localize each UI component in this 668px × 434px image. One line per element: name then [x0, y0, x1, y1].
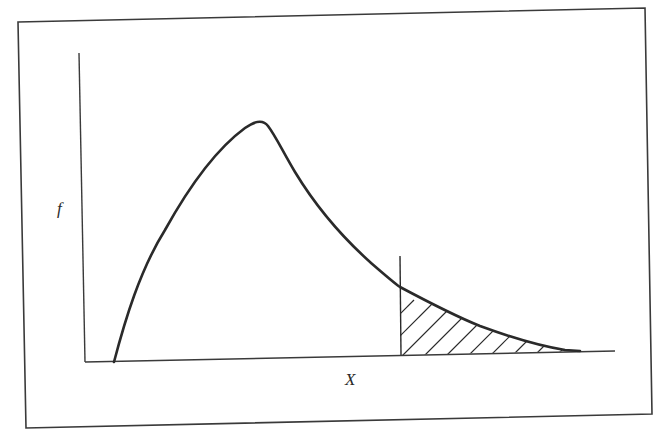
shaded-tail-region — [314, 300, 656, 400]
y-axis — [79, 53, 85, 362]
y-axis-label: f — [57, 200, 62, 217]
cutoff-line — [400, 256, 401, 355]
outer-frame — [18, 8, 652, 428]
x-axis — [85, 351, 615, 362]
x-axis-label: X — [345, 371, 355, 388]
density-diagram — [0, 0, 668, 434]
density-curve — [114, 122, 580, 362]
